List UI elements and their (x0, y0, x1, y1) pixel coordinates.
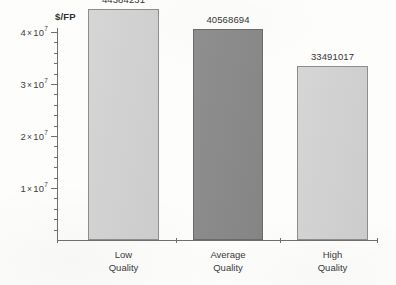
y-tick-minor (54, 209, 57, 210)
x-tick (280, 238, 281, 243)
x-category-label: LowQuality (109, 249, 139, 274)
y-tick-minor (54, 74, 57, 75)
y-tick-label: 4×107 (21, 27, 48, 38)
y-tick-minor (54, 42, 57, 43)
y-tick-major (51, 32, 57, 33)
x-category-label: HighQuality (318, 249, 348, 274)
y-tick-minor (54, 105, 57, 106)
y-tick-label: 1×107 (21, 183, 48, 194)
y-tick-minor (54, 115, 57, 116)
y-tick-major (51, 84, 57, 85)
x-category-label: AverageQuality (210, 249, 245, 274)
x-tick (176, 238, 177, 243)
y-axis-title: $/FP (55, 11, 76, 22)
bar-average-quality[interactable] (193, 29, 263, 240)
y-tick-minor (54, 146, 57, 147)
y-tick-major (51, 136, 57, 137)
x-category-label-line: Quality (318, 262, 348, 275)
x-axis-line (57, 240, 378, 241)
y-tick-minor (54, 126, 57, 127)
x-category-label-line: Quality (210, 262, 245, 275)
y-tick-minor (54, 167, 57, 168)
y-axis-line (57, 28, 58, 241)
y-tick-minor (54, 178, 57, 179)
bar-low-quality[interactable] (88, 9, 159, 240)
y-tick-minor (54, 198, 57, 199)
x-tick (57, 238, 58, 243)
y-tick-minor (54, 63, 57, 64)
x-category-label-line: High (318, 249, 348, 262)
bar-value-label: 33491017 (311, 51, 354, 62)
x-category-label-line: Low (109, 249, 139, 262)
bar-value-label: 40568694 (206, 14, 249, 25)
y-tick-minor (54, 230, 57, 231)
y-tick-minor (54, 219, 57, 220)
bar-high-quality[interactable] (297, 66, 368, 240)
y-tick-minor (54, 94, 57, 95)
bar-value-label: 44384231 (102, 0, 145, 5)
y-tick-minor (54, 157, 57, 158)
x-category-label-line: Average (210, 249, 245, 262)
bar-chart-figure: $/FP 1×1072×1073×1074×107 44384231LowQua… (0, 0, 396, 285)
y-tick-major (51, 188, 57, 189)
x-category-label-line: Quality (109, 262, 139, 275)
y-tick-minor (54, 53, 57, 54)
y-tick-label: 2×107 (21, 131, 48, 142)
y-tick-label: 3×107 (21, 79, 48, 90)
x-tick (377, 238, 378, 243)
